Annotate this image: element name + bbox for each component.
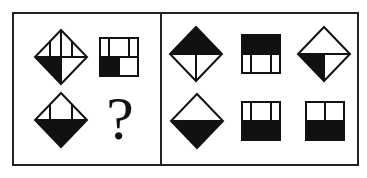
panel-divider xyxy=(160,12,162,164)
question-figure-3-diamond xyxy=(33,91,89,149)
option-b-square[interactable] xyxy=(240,33,282,75)
question-mark: ? xyxy=(100,86,140,150)
option-c-diamond[interactable] xyxy=(296,25,352,83)
option-a-diamond[interactable] xyxy=(168,25,224,83)
question-figure-2-square xyxy=(98,36,140,78)
option-f-square[interactable] xyxy=(304,100,346,142)
option-d-diamond[interactable] xyxy=(169,92,225,150)
question-figure-1-diamond xyxy=(33,28,89,86)
option-e-square[interactable] xyxy=(240,100,282,142)
